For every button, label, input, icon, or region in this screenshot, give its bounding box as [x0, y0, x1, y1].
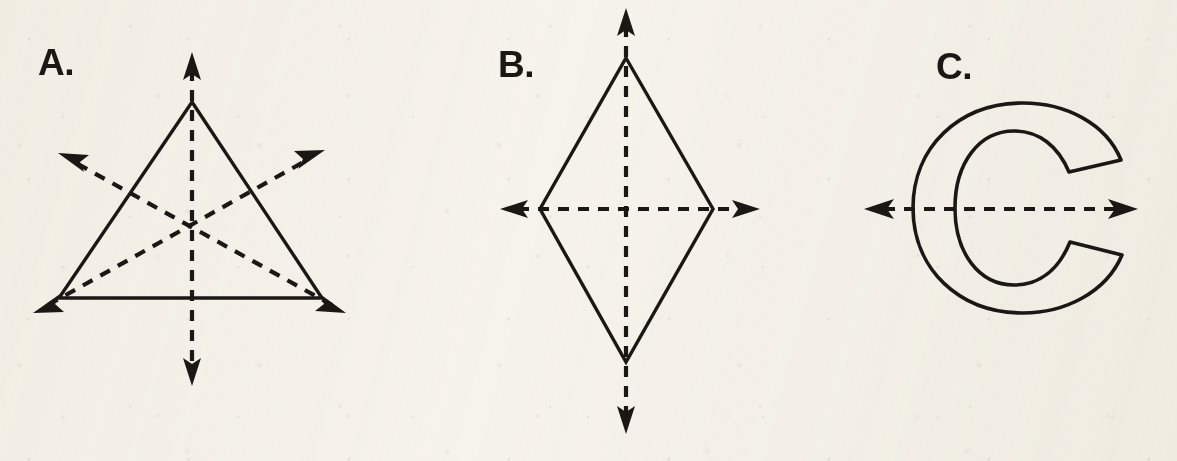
letter-c-figure — [800, 0, 1177, 461]
right-diagonal-symmetry-line — [33, 150, 325, 313]
arrow-head-right — [732, 200, 760, 218]
horizontal-symmetry-line — [864, 199, 1138, 219]
panel-c-letter-c: C. — [800, 0, 1177, 461]
kite-figure — [400, 0, 800, 461]
worksheet-page: A. B. — [0, 0, 1177, 461]
panel-a-triangle: A. — [0, 0, 400, 461]
triangle-figure — [0, 0, 400, 461]
panel-b-kite: B. — [400, 0, 800, 461]
arrow-head-down — [183, 358, 201, 386]
